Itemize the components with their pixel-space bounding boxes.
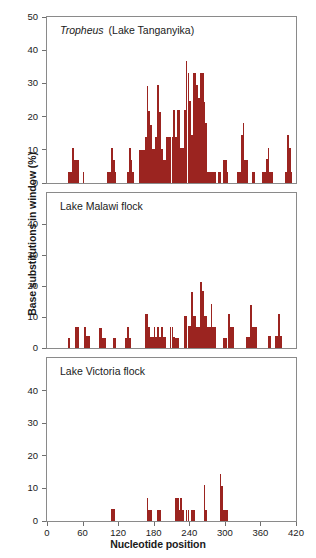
- y-axis-tick-label: 30: [12, 249, 38, 260]
- histogram-bar: [104, 338, 106, 348]
- y-axis-tick: [42, 50, 46, 51]
- histogram-bar: [115, 172, 117, 183]
- panel-title: Tropheus(Lake Tanganyika): [60, 24, 194, 36]
- histogram-bar: [214, 327, 216, 348]
- histogram-bar: [227, 510, 229, 521]
- histogram-bar: [129, 338, 131, 348]
- x-axis-tick: [154, 522, 155, 526]
- y-axis-tick-label: 10: [12, 144, 38, 155]
- y-axis-tick: [42, 116, 46, 117]
- y-axis-tick: [42, 286, 46, 287]
- histogram-bar: [188, 510, 190, 521]
- panel-title: Lake Malawi flock: [60, 200, 143, 212]
- y-axis-tick-label: 30: [12, 417, 38, 428]
- x-axis-tick-label: 420: [276, 527, 316, 538]
- y-axis-tick-label: 20: [12, 280, 38, 291]
- y-axis-tick-label: 20: [12, 111, 38, 122]
- panel-title-genus: Tropheus: [60, 24, 104, 36]
- histogram-bar: [225, 338, 227, 348]
- histogram-bar: [164, 337, 166, 348]
- histogram-bar: [214, 172, 216, 183]
- y-axis-tick: [42, 521, 46, 522]
- y-axis-tick: [42, 455, 46, 456]
- y-axis-tick: [42, 317, 46, 318]
- bar-series: [47, 193, 296, 348]
- y-axis-tick: [42, 348, 46, 349]
- panel-title-rest: (Lake Tanganyika): [109, 24, 195, 36]
- histogram-bar: [68, 338, 70, 348]
- y-axis-tick-label: 0: [12, 177, 38, 188]
- histogram-bar: [159, 510, 161, 521]
- x-axis-tick-label: 60: [63, 527, 103, 538]
- x-axis-tick: [83, 522, 84, 526]
- bar-series: [47, 358, 296, 521]
- histogram-bar: [83, 172, 85, 183]
- y-axis-tick-label: 10: [12, 311, 38, 322]
- histogram-bar: [177, 338, 179, 348]
- histogram-bar: [280, 336, 282, 348]
- x-axis-tick-label: 240: [169, 527, 209, 538]
- x-axis-tick-label: 180: [134, 527, 174, 538]
- y-axis-tick-label: 30: [12, 77, 38, 88]
- histogram-bar: [132, 172, 134, 183]
- x-axis-tick-label: 300: [205, 527, 245, 538]
- histogram-bar: [150, 510, 152, 521]
- y-axis-tick: [42, 423, 46, 424]
- y-axis-tick: [42, 183, 46, 184]
- x-axis-tick: [189, 522, 190, 526]
- histogram-bar: [255, 327, 257, 348]
- histogram-bar: [193, 510, 195, 521]
- histogram-bar: [77, 160, 79, 183]
- y-axis-tick: [42, 390, 46, 391]
- panel-title-rest: Lake Victoria flock: [60, 365, 145, 377]
- panel-tropheus: Tropheus(Lake Tanganyika): [46, 16, 297, 184]
- histogram-bar: [115, 338, 117, 348]
- histogram-bar: [205, 510, 207, 521]
- bar-series: [47, 17, 296, 183]
- y-axis-tick-label: 20: [12, 450, 38, 461]
- x-axis-tick: [260, 522, 261, 526]
- histogram-bar: [269, 336, 271, 348]
- y-axis-tick: [42, 255, 46, 256]
- histogram-bar: [182, 510, 184, 521]
- histogram-bar: [253, 172, 255, 183]
- y-axis-tick: [42, 83, 46, 84]
- x-axis-tick-label: 120: [98, 527, 138, 538]
- histogram-bar: [220, 172, 222, 183]
- panel-malawi: Lake Malawi flock: [46, 192, 297, 349]
- histogram-bar: [77, 327, 79, 348]
- histogram-bar: [227, 172, 229, 183]
- y-axis-tick: [42, 149, 46, 150]
- x-axis-tick: [118, 522, 119, 526]
- x-axis-tick: [47, 522, 48, 526]
- x-axis-tick-label: 360: [240, 527, 280, 538]
- y-axis-tick-label: 40: [12, 44, 38, 55]
- y-axis-tick-label: 40: [12, 385, 38, 396]
- histogram-bar: [232, 327, 234, 348]
- y-axis-tick-label: 10: [12, 482, 38, 493]
- histogram-bar: [291, 172, 293, 183]
- y-axis-tick: [42, 488, 46, 489]
- y-axis-tick: [42, 224, 46, 225]
- histogram-bar: [246, 160, 248, 183]
- x-axis-tick: [296, 522, 297, 526]
- figure-root: Base substitutions in window (%) Nucleot…: [0, 0, 316, 558]
- x-axis-tick: [225, 522, 226, 526]
- panel-title-rest: Lake Malawi flock: [60, 200, 143, 212]
- panel-title: Lake Victoria flock: [60, 365, 145, 377]
- x-axis-tick-label: 0: [27, 527, 67, 538]
- y-axis-tick: [42, 17, 46, 18]
- histogram-bar: [113, 509, 115, 521]
- x-axis-title: Nucleotide position: [0, 538, 316, 550]
- histogram-bar: [271, 172, 273, 183]
- y-axis-tick-label: 50: [12, 11, 38, 22]
- y-axis-tick-label: 40: [12, 218, 38, 229]
- panel-victoria: Lake Victoria flock: [46, 357, 297, 522]
- y-axis-tick-label: 0: [12, 342, 38, 353]
- y-axis-tick-label: 0: [12, 515, 38, 526]
- histogram-bar: [88, 336, 90, 348]
